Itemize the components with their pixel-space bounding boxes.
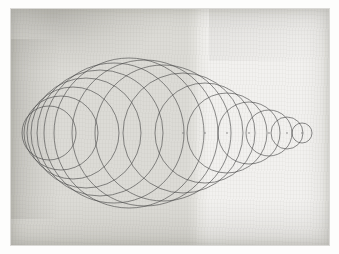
drawing-canvas xyxy=(0,0,339,254)
paper-vignette xyxy=(11,9,329,245)
paper-sheet xyxy=(11,9,329,245)
